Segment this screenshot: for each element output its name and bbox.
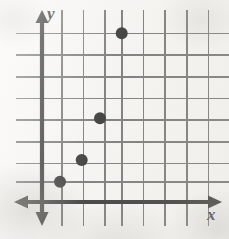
data-point <box>54 176 66 188</box>
plot-canvas <box>0 0 229 239</box>
grid-vertical-lines <box>62 10 209 226</box>
y-axis-label: y <box>47 5 55 22</box>
x-axis-label: x <box>207 206 216 223</box>
axes <box>14 10 222 226</box>
data-point <box>94 112 106 124</box>
y-axis-down-arrow-icon <box>36 212 49 226</box>
x-axis-left-arrow-icon <box>14 196 28 209</box>
data-point <box>76 154 88 166</box>
coordinate-plane-figure: y x <box>0 0 229 239</box>
grid-horizontal-lines <box>16 33 229 181</box>
data-point <box>116 27 128 39</box>
